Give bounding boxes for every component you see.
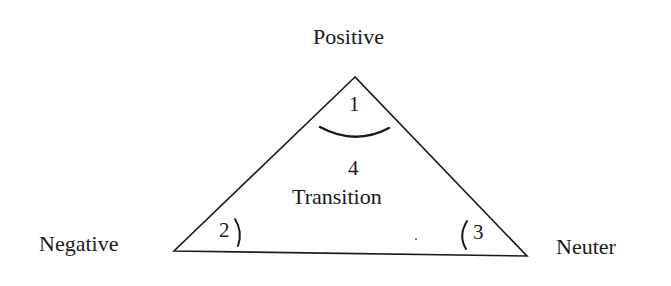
speck-dot bbox=[415, 238, 417, 240]
angle-number-3: 3 bbox=[473, 222, 484, 243]
top-angle-arc bbox=[320, 127, 389, 137]
angle-number-1: 1 bbox=[349, 94, 360, 115]
right-angle-arc bbox=[462, 221, 467, 249]
vertex-label-neuter: Neuter bbox=[556, 236, 616, 258]
center-number-4: 4 bbox=[348, 158, 359, 179]
vertex-label-positive: Positive bbox=[313, 26, 384, 48]
left-angle-arc bbox=[235, 219, 240, 246]
vertex-label-negative: Negative bbox=[39, 233, 118, 255]
angle-number-2: 2 bbox=[219, 220, 230, 241]
center-label-transition: Transition bbox=[292, 186, 382, 208]
